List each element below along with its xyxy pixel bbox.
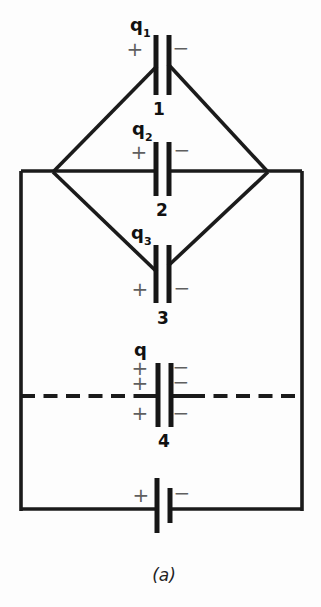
wire-diagonal-cap3-right (168, 172, 268, 266)
capacitor-2-number: 2 (156, 200, 168, 220)
capacitor-2-plus-sign: + (131, 140, 148, 164)
capacitor-1-charge-label: q (130, 14, 143, 35)
figure-caption: (a) (152, 565, 176, 585)
capacitor-3-charge-subscript: 3 (144, 235, 152, 248)
capacitor-4-minus-sign-2: − (173, 370, 190, 394)
battery-plus-sign: + (133, 483, 150, 507)
capacitor-1-minus-sign: − (173, 36, 190, 60)
capacitor-3-number: 3 (157, 308, 169, 328)
capacitor-3-minus-sign: − (174, 276, 191, 300)
capacitor-3-charge-label: q (131, 222, 144, 243)
capacitor-2-minus-sign: − (174, 138, 191, 162)
capacitor-4-number: 4 (158, 431, 170, 451)
capacitor-2-charge-label: q (132, 118, 145, 139)
capacitor-1-number: 1 (153, 99, 165, 119)
capacitor-4-minus-sign-3: − (173, 401, 190, 425)
circuit-diagram: q 1 + − 1 q 2 + − 2 q 3 + − 3 q + + + − … (0, 0, 321, 607)
capacitor-4-plus-sign-3: + (132, 401, 149, 425)
battery-minus-sign: − (174, 481, 191, 505)
capacitor-circuit-figure: q 1 + − 1 q 2 + − 2 q 3 + − 3 q + + + − … (0, 0, 321, 607)
capacitor-1-plus-sign: + (127, 37, 144, 61)
capacitor-4-plus-sign-2: + (132, 371, 149, 395)
capacitor-3-plus-sign: + (132, 277, 149, 301)
capacitor-1-charge-subscript: 1 (143, 27, 151, 40)
